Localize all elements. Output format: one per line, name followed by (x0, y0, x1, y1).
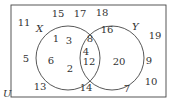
element-5: 5 (23, 53, 29, 64)
element-19: 19 (149, 30, 162, 41)
element-17: 17 (74, 8, 87, 19)
set-x-label: X (35, 23, 44, 34)
element-3: 3 (66, 35, 72, 46)
element-1: 1 (53, 33, 59, 44)
element-15: 15 (52, 8, 65, 19)
element-2: 2 (67, 63, 73, 74)
element-14: 14 (80, 82, 93, 93)
element-12: 12 (83, 56, 96, 67)
element-10: 10 (145, 76, 158, 87)
element-18: 18 (96, 7, 109, 18)
element-6: 6 (48, 55, 54, 66)
element-13: 13 (34, 81, 47, 92)
universe-label: U (3, 88, 12, 99)
element-11: 11 (18, 17, 31, 28)
element-9: 9 (146, 55, 152, 66)
element-8: 8 (87, 33, 93, 44)
venn-diagram: U X Y 1517181119161384561220921013147 (0, 0, 171, 105)
set-y-label: Y (132, 21, 140, 32)
element-20: 20 (113, 56, 126, 67)
element-7: 7 (124, 83, 130, 94)
element-16: 16 (101, 24, 114, 35)
